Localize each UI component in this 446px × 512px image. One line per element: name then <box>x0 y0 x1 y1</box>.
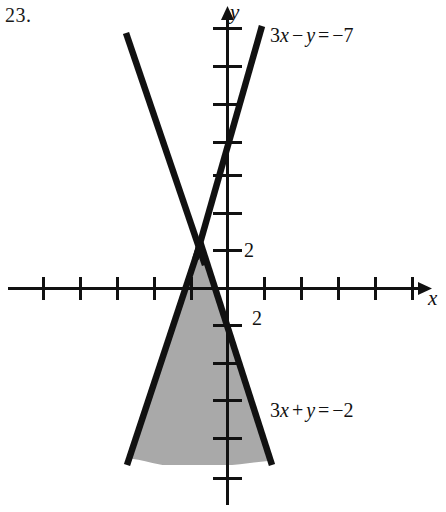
problem-number: 23. <box>5 5 32 25</box>
eq2-coef: 3 <box>270 399 280 421</box>
line-3x-plus-y-upper <box>126 33 205 265</box>
x-axis-tick-label-2: 2 <box>252 308 262 328</box>
equation-label-3x-minus-y: 3x−y=−7 <box>270 25 354 45</box>
y-axis-label: y <box>230 2 239 23</box>
eq2-var-y: y <box>306 399 315 421</box>
eq1-var-y: y <box>306 24 315 46</box>
graph-figure: 23. <box>0 0 446 512</box>
eq1-equals: = <box>315 24 332 46</box>
eq1-operator: − <box>289 24 306 46</box>
eq1-rhs: −7 <box>332 24 353 46</box>
eq1-coef: 3 <box>270 24 280 46</box>
x-axis-label: x <box>428 288 437 309</box>
y-axis-tick-label-2: 2 <box>244 240 254 260</box>
eq1-var-x: x <box>280 24 289 46</box>
eq2-var-x: x <box>280 399 289 421</box>
eq2-rhs: −2 <box>332 399 353 421</box>
shaded-region-fill <box>127 243 272 465</box>
equation-label-3x-plus-y: 3x+y=−2 <box>270 400 354 420</box>
coordinate-plane-svg <box>0 0 446 512</box>
eq2-operator: + <box>289 399 306 421</box>
eq2-equals: = <box>315 399 332 421</box>
shaded-solution-region <box>127 243 272 465</box>
